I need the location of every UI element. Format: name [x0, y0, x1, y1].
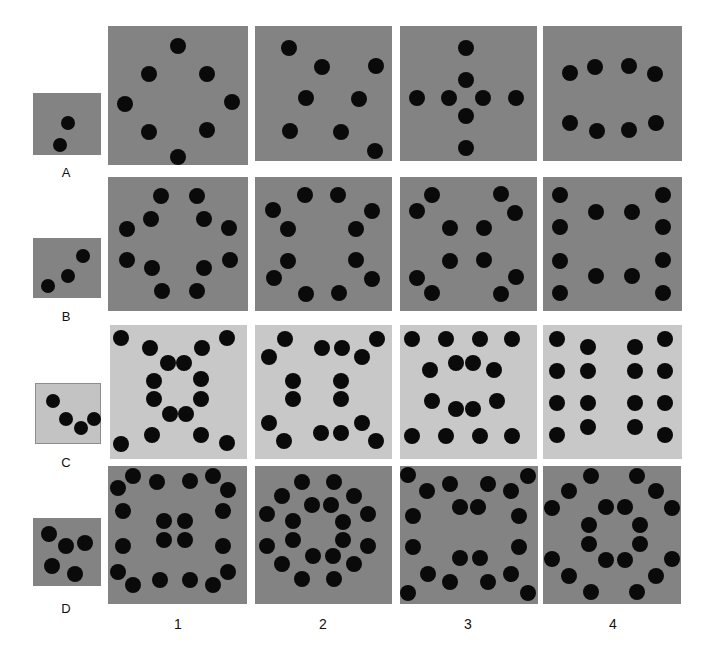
dot — [627, 419, 643, 435]
dot — [280, 253, 296, 269]
dot — [465, 401, 481, 417]
stimulus-panel-d2 — [255, 466, 392, 604]
dot — [313, 425, 329, 441]
dot — [280, 221, 296, 237]
dot — [493, 186, 509, 202]
dot — [647, 66, 663, 82]
dot — [156, 513, 172, 529]
dot — [617, 552, 633, 568]
dot — [511, 508, 527, 524]
dot — [160, 355, 176, 371]
dot — [87, 412, 101, 426]
dot — [335, 532, 351, 548]
dot — [627, 363, 643, 379]
dot — [624, 268, 640, 284]
dot — [465, 355, 481, 371]
dot — [193, 371, 209, 387]
dot — [409, 270, 425, 286]
dot — [182, 572, 198, 588]
dot — [323, 497, 339, 513]
dot — [281, 40, 297, 56]
dot — [333, 124, 349, 140]
dot — [205, 577, 221, 593]
dot — [405, 508, 421, 524]
dot — [552, 253, 568, 269]
dot — [405, 539, 421, 555]
dot — [544, 551, 560, 567]
dot — [588, 204, 604, 220]
dot — [420, 566, 436, 582]
dot — [125, 468, 141, 484]
stimulus-panel-d1 — [108, 466, 247, 604]
dot — [149, 474, 165, 490]
dot — [294, 571, 310, 587]
stimulus-panel-d4 — [543, 466, 681, 604]
dot — [119, 252, 135, 268]
dot — [162, 406, 178, 422]
dot — [438, 331, 454, 347]
dot — [141, 66, 157, 82]
dot — [409, 90, 425, 106]
dot — [196, 260, 212, 276]
dot — [46, 394, 60, 408]
column-label-1: 1 — [174, 617, 182, 631]
dot — [154, 283, 170, 299]
dot — [110, 564, 126, 580]
dot — [648, 483, 664, 499]
row-label-c: C — [61, 456, 70, 469]
dot — [504, 331, 520, 347]
dot — [189, 283, 205, 299]
stimulus-panel-a1 — [108, 26, 248, 165]
dot — [458, 140, 474, 156]
dot — [629, 468, 645, 484]
dot — [629, 584, 645, 600]
dot — [452, 550, 468, 566]
dot — [549, 395, 565, 411]
dot — [581, 517, 597, 533]
dot — [170, 38, 186, 54]
dot — [119, 221, 135, 237]
dot — [285, 391, 301, 407]
dot — [664, 551, 680, 567]
dot — [364, 203, 380, 219]
dot — [113, 436, 129, 452]
dot — [41, 279, 55, 293]
dot — [61, 269, 75, 283]
dot — [549, 427, 565, 443]
dot — [304, 497, 320, 513]
dot — [194, 340, 210, 356]
dot — [493, 286, 509, 302]
dot — [178, 406, 194, 422]
dot — [520, 585, 536, 601]
dot — [277, 331, 293, 347]
dot — [222, 252, 238, 268]
dot — [409, 203, 425, 219]
stimulus-panel-c-sample — [35, 383, 101, 444]
dot — [346, 556, 362, 572]
dot — [657, 395, 673, 411]
dot — [53, 138, 67, 152]
dot — [598, 552, 614, 568]
dot — [259, 506, 275, 522]
stimulus-panel-c3 — [400, 325, 537, 459]
dot — [504, 428, 520, 444]
dot — [655, 187, 671, 203]
dot — [486, 362, 502, 378]
dot — [282, 123, 298, 139]
dot — [404, 331, 420, 347]
dot — [333, 391, 349, 407]
dot — [441, 90, 457, 106]
stimulus-panel-c1 — [110, 325, 247, 459]
dot — [580, 395, 596, 411]
dot — [442, 476, 458, 492]
dot — [360, 538, 376, 554]
dot — [664, 500, 680, 516]
dot — [113, 330, 129, 346]
dot — [442, 220, 458, 236]
dot — [285, 373, 301, 389]
dot — [205, 468, 221, 484]
dot — [348, 252, 364, 268]
dot — [189, 188, 205, 204]
dot — [220, 482, 236, 498]
dot — [44, 558, 60, 574]
